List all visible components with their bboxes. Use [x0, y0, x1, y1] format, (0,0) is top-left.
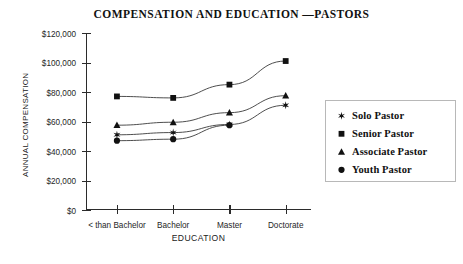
x-tick-label: Bachelor — [157, 221, 189, 230]
circle-marker — [226, 122, 232, 128]
y-tick: $0 — [82, 210, 91, 211]
legend-label: Solo Pastor — [352, 110, 404, 121]
legend-item: Youth Pastor — [335, 160, 450, 178]
square-marker — [114, 94, 120, 100]
legend-item: Senior Pastor — [335, 124, 450, 142]
x-tick-label: Doctorate — [268, 221, 304, 230]
legend-label: Associate Pastor — [352, 146, 427, 157]
y-tick-label: $60,000 — [46, 118, 76, 127]
series-plot — [86, 33, 311, 210]
x-tick-label: Master — [217, 221, 242, 230]
circle-marker — [114, 138, 120, 144]
y-tick-label: $20,000 — [46, 177, 76, 186]
triangle-icon — [335, 145, 348, 158]
star-icon — [335, 109, 348, 122]
series-line — [117, 105, 286, 135]
square-marker — [227, 82, 233, 88]
legend-item: Solo Pastor — [335, 106, 450, 124]
square-marker — [283, 58, 289, 64]
x-axis-title: EDUCATION — [86, 233, 311, 243]
legend-item: Associate Pastor — [335, 142, 450, 160]
circle-marker — [170, 136, 176, 142]
x-tick-label: < than Bachelor — [88, 221, 146, 230]
legend-label: Senior Pastor — [352, 128, 414, 139]
chart-legend: Solo PastorSenior PastorAssociate Pastor… — [325, 100, 456, 182]
legend-label: Youth Pastor — [352, 164, 412, 175]
y-tick-label: $120,000 — [42, 29, 76, 38]
star-marker — [338, 111, 345, 119]
y-tick-label: $40,000 — [46, 147, 76, 156]
plot-area: $0$20,000$40,000$60,000$80,000$100,000$1… — [86, 33, 311, 210]
y-tick-label: $100,000 — [42, 59, 76, 68]
chart-title: COMPENSATION AND EDUCATION —PASTORS — [0, 8, 463, 20]
y-axis-title: ANNUAL COMPENSATION — [18, 60, 32, 190]
square-icon — [335, 127, 348, 140]
circle-marker — [338, 166, 344, 172]
compensation-education-chart: COMPENSATION AND EDUCATION —PASTORS ANNU… — [0, 0, 463, 264]
square-marker — [339, 130, 345, 136]
square-marker — [170, 95, 176, 101]
series-line — [117, 96, 286, 126]
circle-icon — [335, 163, 348, 176]
y-tick-label: $0 — [67, 206, 76, 215]
series-line — [117, 61, 286, 98]
y-tick-label: $80,000 — [46, 88, 76, 97]
triangle-marker — [338, 148, 345, 155]
